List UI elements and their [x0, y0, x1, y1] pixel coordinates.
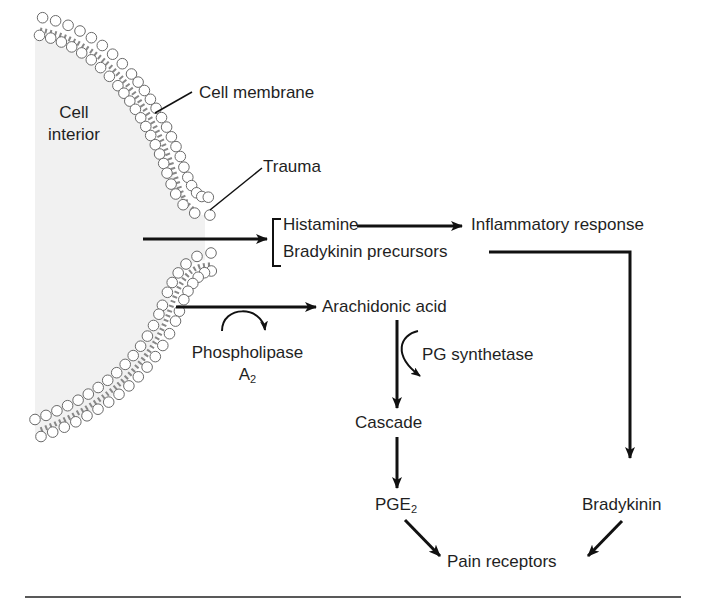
cascade-label: Cascade [355, 413, 422, 433]
pg-synthetase-label: PG synthetase [422, 345, 534, 365]
trauma-label: Trauma [263, 157, 321, 177]
pge-subscript: 2 [411, 503, 417, 515]
cell-membrane-leader [155, 92, 192, 113]
phospholipase-a2-text: A2 [181, 365, 314, 385]
histamine-label: Histamine [283, 215, 359, 235]
pg-synthetase-curved-arrow [402, 331, 420, 376]
phospholipase-curved-arrow [222, 311, 265, 331]
mediator-bracket [273, 219, 281, 266]
a-letter: A [239, 365, 250, 384]
a-subscript: 2 [250, 373, 256, 385]
cell-interior-line1: Cell [48, 102, 100, 124]
arrow-bradykinin-to-pain [588, 521, 622, 556]
inflammatory-response-label: Inflammatory response [471, 215, 644, 235]
phospholipase-label: Phospholipase A2 [181, 343, 314, 385]
bradykinin-precursors-label: Bradykinin precursors [283, 242, 447, 262]
phospholipase-text: Phospholipase [181, 343, 314, 363]
diagram-canvas: Cell interior Cell membrane Trauma Hista… [0, 0, 706, 613]
trauma-leader [210, 168, 262, 210]
bradykinin-label: Bradykinin [582, 495, 661, 515]
arrow-pge2-to-pain [405, 520, 440, 556]
pain-receptors-label: Pain receptors [447, 552, 557, 572]
cell-membrane-label: Cell membrane [199, 83, 314, 103]
cell-interior-label: Cell interior [48, 102, 100, 146]
cell-interior-line2: interior [48, 124, 100, 146]
pge2-label: PGE2 [375, 495, 417, 515]
arachidonic-acid-label: Arachidonic acid [322, 297, 447, 317]
pge-text: PGE [375, 495, 411, 514]
